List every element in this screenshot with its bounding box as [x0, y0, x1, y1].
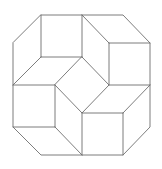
tiling-diagram [0, 0, 162, 169]
edge [123, 85, 150, 113]
edge [55, 127, 82, 155]
edge [82, 15, 109, 43]
center-diamond [55, 57, 109, 113]
internal-edges [13, 15, 150, 155]
edge [13, 57, 41, 85]
